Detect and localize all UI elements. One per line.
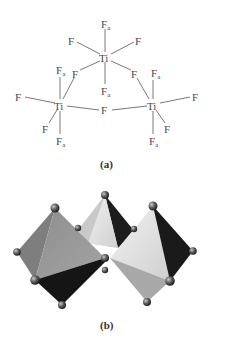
caption-b: (b)	[100, 319, 114, 332]
panel-b-polyhedra: (b)	[0, 0, 245, 344]
figure: Fa F F Ti F F Fa Fa F Ti F Fa F Fa F Ti …	[0, 0, 245, 344]
